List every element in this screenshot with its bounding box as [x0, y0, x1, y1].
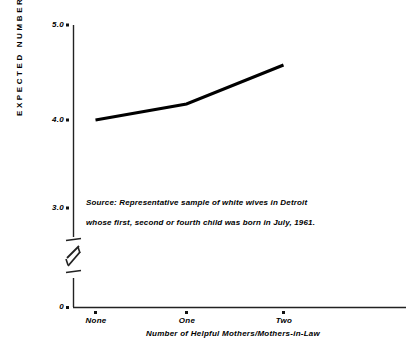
y-tick-5.0	[66, 24, 69, 27]
y-axis-title: EXPECTED NUMBER OF CHILDREN	[15, 0, 24, 116]
chart-figure: 5.0 4.0 3.0 0 None One Two Number of Hel…	[0, 0, 418, 340]
y-tick-label-0: 0	[44, 302, 64, 311]
x-axis-title: Number of Helpful Mothers/Mothers-in-Law	[113, 329, 353, 338]
y-tick-label-5.0: 5.0	[44, 20, 64, 29]
y-tick-label-4.0: 4.0	[44, 115, 64, 124]
axis-break-icon	[66, 239, 81, 273]
x-tick-label-one: One	[161, 316, 213, 325]
x-tick-label-none: None	[70, 316, 122, 325]
y-tick-label-3.0: 3.0	[44, 203, 64, 212]
x-tick-two	[282, 311, 285, 314]
x-tick-label-two: Two	[258, 316, 310, 325]
source-note-line-2: whose first, second or fourth child was …	[86, 218, 315, 227]
x-tick-none	[94, 311, 97, 314]
y-tick-0	[66, 306, 69, 309]
y-tick-3.0	[66, 207, 69, 210]
data-line-expected-children	[96, 65, 284, 120]
source-note-line-1: Source: Representative sample of white w…	[86, 198, 307, 207]
y-tick-4.0	[66, 119, 69, 122]
x-tick-one	[185, 311, 188, 314]
chart-canvas	[0, 0, 418, 340]
